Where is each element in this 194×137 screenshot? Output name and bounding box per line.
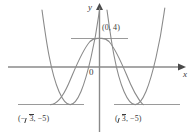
origin-label: 0 xyxy=(89,68,94,77)
vertex-top-label: (0, 4) xyxy=(102,24,120,32)
y-axis-label: y xyxy=(88,3,92,12)
quartic-curve xyxy=(42,8,100,105)
vertex-right-label: (3, −5) xyxy=(115,114,142,123)
vertex-left-close: , −5) xyxy=(34,114,50,123)
vertex-left-radicand: 3 xyxy=(29,114,33,123)
sqrt-radical-left: 3 xyxy=(25,114,33,123)
vertex-right-radicand: 3 xyxy=(122,114,126,123)
x-axis-label: x xyxy=(183,70,187,79)
quartic-curve-center xyxy=(51,38,144,104)
sqrt-radical-right: 3 xyxy=(118,114,126,123)
vertex-right-close: , −5) xyxy=(126,114,142,123)
graph-figure: y x 0 (0, 4) (−3, −5) (3, −5) xyxy=(0,0,194,137)
vertex-left-label: (−3, −5) xyxy=(18,114,49,123)
